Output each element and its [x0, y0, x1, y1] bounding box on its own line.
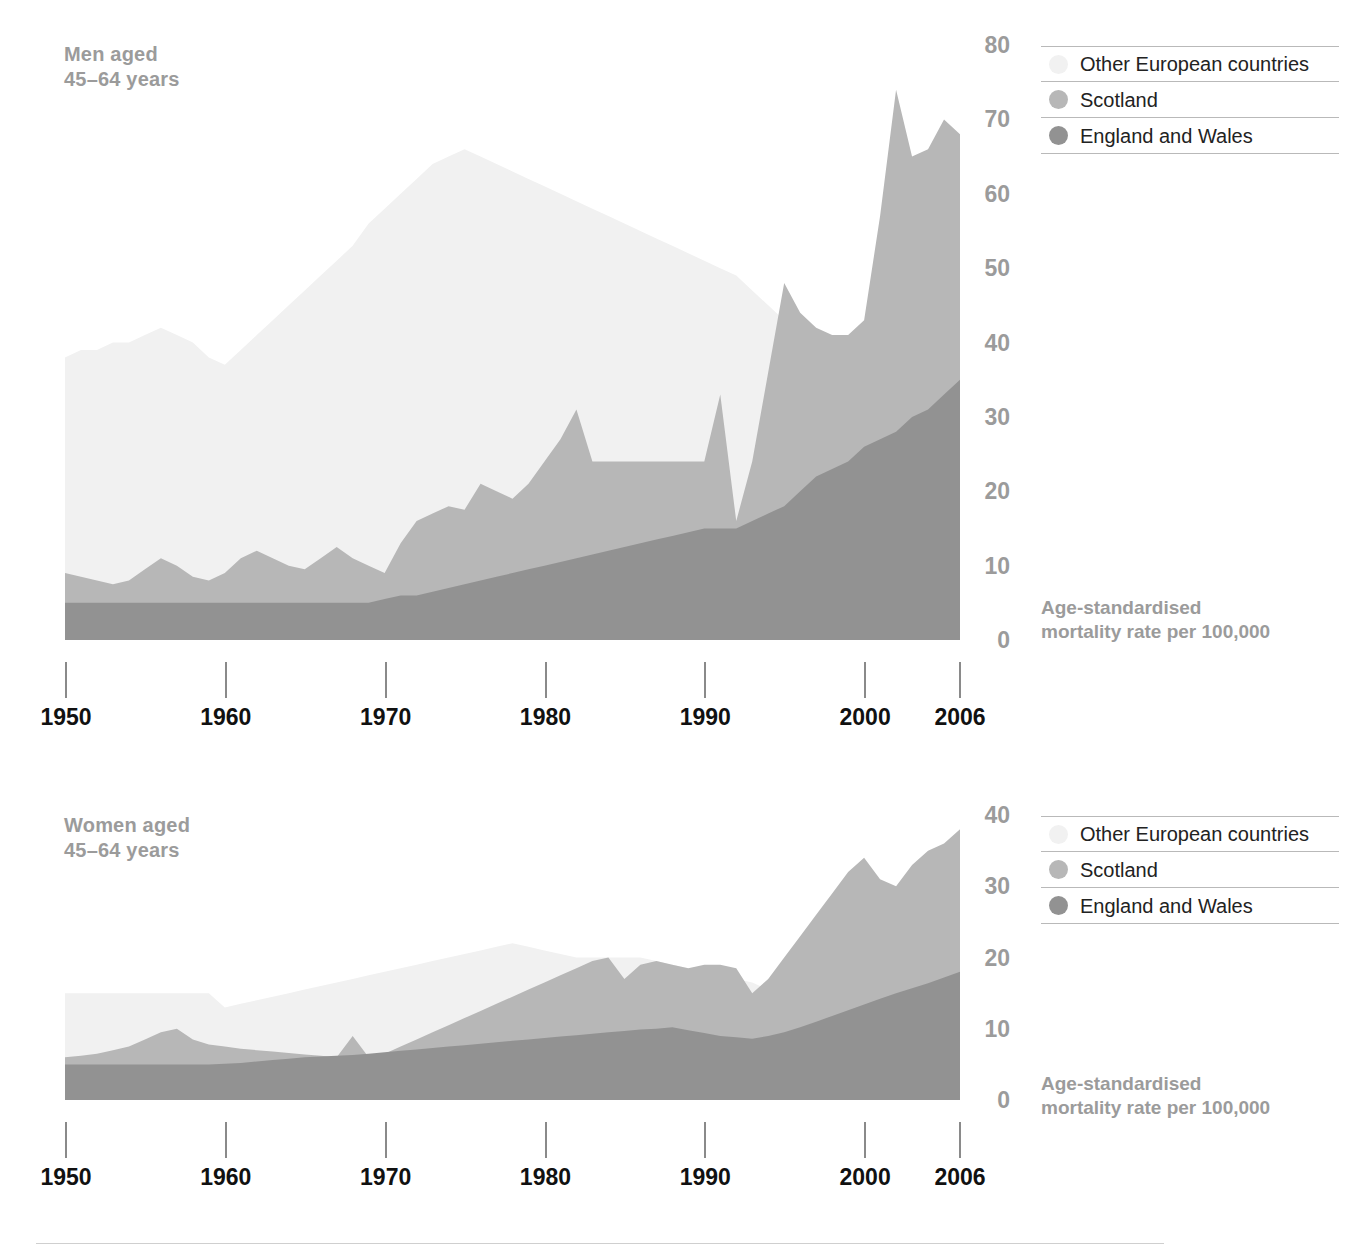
legend-swatch-icon — [1049, 126, 1068, 145]
y-axis-labels-women: 010203040 — [964, 815, 1010, 1100]
x-tick-label: 1980 — [520, 706, 571, 729]
x-tick-mark — [864, 662, 866, 698]
y-axis-labels-men: 01020304050607080 — [964, 45, 1010, 640]
legend-men: Other European countriesScotlandEngland … — [1041, 46, 1339, 154]
legend-swatch-icon — [1049, 825, 1068, 844]
x-tick-mark — [864, 1122, 866, 1158]
footer-divider — [36, 1243, 1164, 1244]
y-tick-label: 20 — [984, 946, 1010, 969]
y-axis-caption-men: Age-standardised mortality rate per 100,… — [1041, 596, 1270, 644]
x-tick-label: 2006 — [934, 1166, 985, 1189]
legend-item-other-european[interactable]: Other European countries — [1041, 46, 1339, 82]
x-tick-label: 2000 — [840, 1166, 891, 1189]
legend-item-label: England and Wales — [1080, 126, 1253, 146]
legend-item-scotland[interactable]: Scotland — [1041, 82, 1339, 118]
panel-men: Men aged 45–64 years 01020304050607080 A… — [0, 0, 1358, 740]
legend-item-england-and-wales[interactable]: England and Wales — [1041, 888, 1339, 924]
legend-item-scotland[interactable]: Scotland — [1041, 852, 1339, 888]
x-tick-mark — [704, 662, 706, 698]
y-tick-label: 60 — [984, 182, 1010, 205]
y-tick-label: 40 — [984, 804, 1010, 827]
x-tick-mark — [385, 1122, 387, 1158]
y-tick-label: 50 — [984, 257, 1010, 280]
legend-women: Other European countriesScotlandEngland … — [1041, 816, 1339, 924]
legend-item-label: Other European countries — [1080, 54, 1309, 74]
x-tick-label: 1990 — [680, 1166, 731, 1189]
y-tick-label: 30 — [984, 875, 1010, 898]
area-chart-men — [65, 45, 960, 640]
legend-swatch-icon — [1049, 90, 1068, 109]
x-tick-label: 1950 — [40, 706, 91, 729]
x-tick-label: 2000 — [840, 706, 891, 729]
legend-swatch-icon — [1049, 896, 1068, 915]
x-tick-mark — [545, 662, 547, 698]
x-tick-label: 1990 — [680, 706, 731, 729]
x-tick-mark — [225, 1122, 227, 1158]
x-tick-label: 1960 — [200, 1166, 251, 1189]
legend-swatch-icon — [1049, 860, 1068, 879]
legend-item-label: Other European countries — [1080, 824, 1309, 844]
legend-item-label: England and Wales — [1080, 896, 1253, 916]
panel-women: Women aged 45–64 years 010203040 Age-sta… — [0, 775, 1358, 1235]
y-axis-caption-women: Age-standardised mortality rate per 100,… — [1041, 1072, 1270, 1120]
x-tick-mark — [959, 662, 961, 698]
y-tick-label: 70 — [984, 108, 1010, 131]
y-tick-label: 0 — [997, 629, 1010, 652]
x-tick-label: 1950 — [40, 1166, 91, 1189]
legend-item-england-and-wales[interactable]: England and Wales — [1041, 118, 1339, 154]
plot-area — [65, 815, 960, 1100]
x-axis-women: 1950196019701980199020002006 — [65, 1122, 960, 1202]
x-tick-label: 1960 — [200, 706, 251, 729]
legend-swatch-icon — [1049, 55, 1068, 74]
legend-item-label: Scotland — [1080, 860, 1158, 880]
x-tick-label: 1980 — [520, 1166, 571, 1189]
x-tick-label: 2006 — [934, 706, 985, 729]
x-tick-mark — [385, 662, 387, 698]
x-axis-men: 1950196019701980199020002006 — [65, 662, 960, 742]
area-chart-women — [65, 815, 960, 1100]
y-tick-label: 20 — [984, 480, 1010, 503]
x-tick-mark — [225, 662, 227, 698]
x-tick-mark — [65, 662, 67, 698]
x-tick-mark — [545, 1122, 547, 1158]
legend-item-label: Scotland — [1080, 90, 1158, 110]
y-tick-label: 30 — [984, 405, 1010, 428]
x-tick-mark — [959, 1122, 961, 1158]
y-tick-label: 10 — [984, 1017, 1010, 1040]
legend-item-other-european[interactable]: Other European countries — [1041, 816, 1339, 852]
x-tick-label: 1970 — [360, 706, 411, 729]
x-tick-mark — [704, 1122, 706, 1158]
plot-area — [65, 45, 960, 640]
x-tick-label: 1970 — [360, 1166, 411, 1189]
y-tick-label: 80 — [984, 34, 1010, 57]
y-tick-label: 0 — [997, 1089, 1010, 1112]
y-tick-label: 40 — [984, 331, 1010, 354]
x-tick-mark — [65, 1122, 67, 1158]
y-tick-label: 10 — [984, 554, 1010, 577]
